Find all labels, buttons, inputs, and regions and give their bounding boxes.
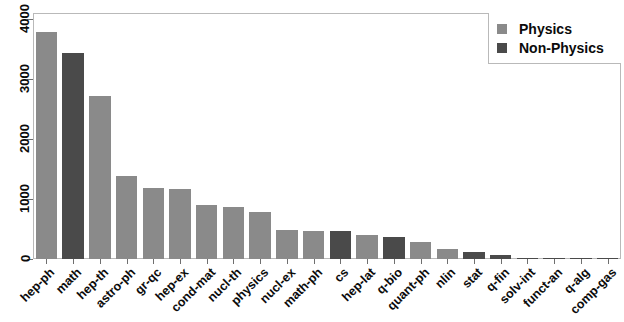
bar-hep-th bbox=[89, 96, 110, 259]
x-tick-mark bbox=[180, 259, 181, 264]
bar-math bbox=[62, 53, 83, 259]
x-tick-mark bbox=[474, 259, 475, 264]
x-tick-mark bbox=[554, 259, 555, 264]
y-tick-label: 3000 bbox=[19, 64, 32, 93]
x-tick-mark bbox=[367, 259, 368, 264]
x-axis: hep-phmathhep-thastro-phgr-qchep-excond-… bbox=[33, 259, 621, 322]
x-tick-mark bbox=[233, 259, 234, 264]
chart-legend: Physics Non-Physics bbox=[488, 13, 621, 64]
x-tick-mark bbox=[501, 259, 502, 264]
y-tick-label: 4000 bbox=[19, 4, 32, 33]
x-tick-mark bbox=[394, 259, 395, 264]
x-tick-mark bbox=[73, 259, 74, 264]
bar-hep-lat bbox=[356, 235, 377, 259]
x-tick-label-cs: cs bbox=[342, 256, 361, 275]
legend-label-non-physics: Non-Physics bbox=[519, 40, 604, 56]
y-tick-label: 1000 bbox=[19, 184, 32, 213]
x-tick-mark bbox=[447, 259, 448, 264]
x-tick-mark bbox=[100, 259, 101, 264]
x-tick-mark bbox=[581, 259, 582, 264]
x-tick-mark bbox=[421, 259, 422, 264]
legend-label-physics: Physics bbox=[519, 21, 572, 37]
x-tick-mark bbox=[340, 259, 341, 264]
bar-hep-ph bbox=[36, 32, 57, 259]
x-tick-mark bbox=[127, 259, 128, 264]
x-tick-mark bbox=[207, 259, 208, 264]
legend-item-physics: Physics bbox=[497, 19, 615, 38]
legend-item-non-physics: Non-Physics bbox=[497, 38, 615, 57]
y-tick-label: 0 bbox=[19, 255, 32, 262]
y-tick-label: 2000 bbox=[19, 124, 32, 153]
x-tick-mark bbox=[46, 259, 47, 264]
x-tick-mark bbox=[260, 259, 261, 264]
y-axis: 01000200030004000 bbox=[0, 0, 33, 322]
legend-swatch-non-physics bbox=[497, 43, 507, 53]
x-tick-mark bbox=[608, 259, 609, 264]
x-tick-mark bbox=[527, 259, 528, 264]
legend-swatch-physics bbox=[497, 24, 507, 34]
x-tick-mark bbox=[314, 259, 315, 264]
bar-chart: 01000200030004000 hep-phmathhep-thastro-… bbox=[0, 0, 624, 322]
x-tick-mark bbox=[153, 259, 154, 264]
x-tick-mark bbox=[287, 259, 288, 264]
